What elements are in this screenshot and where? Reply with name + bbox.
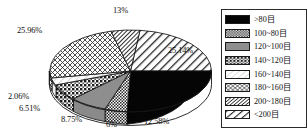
slice-label-gt80: 12.58% bbox=[144, 117, 169, 126]
legend-swatch-solid-black bbox=[225, 15, 250, 24]
legend-item-lt200: <200目 bbox=[225, 108, 304, 122]
legend-item-gt80: >80目 bbox=[225, 13, 304, 27]
slice-label-180-160: 25.96% bbox=[17, 26, 42, 35]
legend-swatch-diagonal-fine bbox=[225, 97, 250, 106]
legend-swatch-diagonal-faint bbox=[225, 70, 250, 79]
legend-swatch-checker-grid bbox=[225, 83, 250, 92]
slice-label-100-80: 6% bbox=[106, 120, 117, 129]
legend-swatch-checker-dark bbox=[225, 56, 250, 65]
legend-label-200-180: 200~180目 bbox=[254, 97, 291, 106]
slice-label-160-140: 2.06% bbox=[8, 92, 29, 101]
slice-label-120-100: 8.75% bbox=[61, 115, 82, 124]
pie-chart-canvas: 25.14% 12.58% 6% 8.75% 6.51% 2.06% 25.96… bbox=[0, 0, 222, 134]
legend-label-180-160: 180~160目 bbox=[254, 83, 291, 92]
legend-swatch-solid-gray bbox=[225, 42, 250, 51]
legend-item-160-140: 160~140目 bbox=[225, 67, 304, 81]
pie-top-faces bbox=[50, 30, 212, 112]
slice-gt80 bbox=[127, 71, 212, 112]
legend-item-140-120: 140~120目 bbox=[225, 54, 304, 68]
slice-label-140-120: 6.51% bbox=[19, 104, 40, 113]
legend-label-160-140: 160~140目 bbox=[254, 70, 291, 79]
chart-legend: >80目 100~80目 120~100目 140~120目 160~140目 bbox=[221, 9, 307, 128]
legend-item-180-160: 180~160目 bbox=[225, 81, 304, 95]
slice-label-lt200: 25.14% bbox=[168, 46, 193, 55]
legend-label-gt80: >80目 bbox=[254, 15, 275, 24]
legend-item-100-80: 100~80目 bbox=[225, 27, 304, 41]
legend-label-lt200: <200目 bbox=[254, 110, 279, 119]
legend-item-200-180: 200~180目 bbox=[225, 95, 304, 109]
legend-swatch-diagonal-wide bbox=[225, 110, 250, 119]
legend-label-140-120: 140~120目 bbox=[254, 56, 291, 65]
legend-item-120-100: 120~100目 bbox=[225, 40, 304, 54]
legend-swatch-checker-dense bbox=[225, 29, 250, 38]
pie-chart-figure: 25.14% 12.58% 6% 8.75% 6.51% 2.06% 25.96… bbox=[0, 0, 308, 134]
legend-label-100-80: 100~80目 bbox=[254, 29, 287, 38]
slice-label-200-180: 13% bbox=[113, 6, 128, 15]
legend-label-120-100: 120~100目 bbox=[254, 42, 291, 51]
